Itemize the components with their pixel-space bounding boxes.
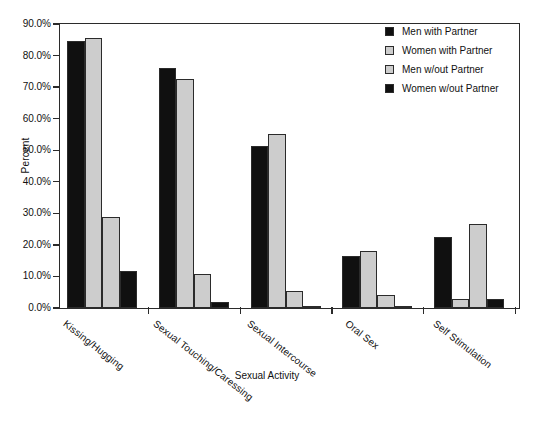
legend-swatch-icon: [385, 65, 394, 74]
legend-item: Men w/out Partner: [385, 60, 519, 79]
bar-chart: Percent 0.0%10.0%20.0%30.0%40.0%50.0%60.…: [0, 0, 534, 426]
legend-item: Women with Partner: [385, 41, 519, 60]
legend-swatch-icon: [385, 46, 394, 55]
x-axis-category-label: Sexual Touching/Caressing: [151, 318, 255, 403]
legend-swatch-icon: [385, 84, 394, 93]
x-axis-category-label: Oral Sex: [343, 318, 381, 351]
legend-item: Men with Partner: [385, 22, 519, 41]
legend-item-label: Women with Partner: [402, 46, 492, 56]
legend-item: Women w/out Partner: [385, 79, 519, 98]
chart-legend: Men with PartnerWomen with PartnerMen w/…: [385, 22, 519, 98]
x-axis-category-label: Self Stimulation: [431, 318, 494, 370]
legend-swatch-icon: [385, 27, 394, 36]
legend-item-label: Men w/out Partner: [402, 65, 484, 75]
x-axis-category-label: Kissing/Hugging: [61, 318, 126, 372]
legend-item-label: Men with Partner: [402, 27, 478, 37]
legend-item-label: Women w/out Partner: [402, 84, 499, 94]
x-axis-title: Sexual Activity: [0, 370, 534, 381]
